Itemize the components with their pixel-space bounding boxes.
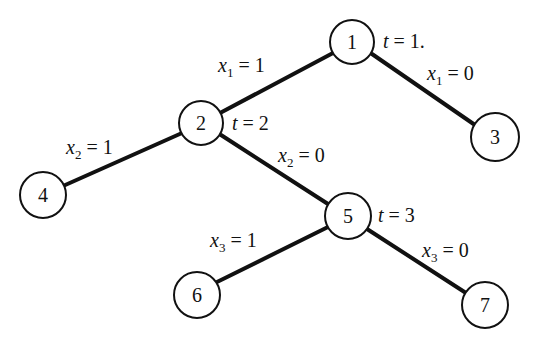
- node-2-label: 2: [196, 112, 206, 134]
- node-6: 6: [174, 272, 220, 318]
- node-5-label: 5: [343, 205, 353, 227]
- edge-label-5-6: x3 = 1: [209, 229, 257, 255]
- edge-label-5-7: x3 = 0: [421, 239, 469, 265]
- node-7-label: 7: [480, 294, 490, 316]
- edge-label-2-4: x2 = 1: [65, 136, 113, 162]
- node-1-label: 1: [347, 31, 357, 53]
- node-5: 5: [325, 193, 371, 239]
- node-6-label: 6: [192, 284, 202, 306]
- branching-tree-diagram: 1 2 3 4 5 6 7 x1 = 1 x1 = 0 x2 = 1 x2 = …: [0, 0, 541, 345]
- node-4-label: 4: [38, 184, 48, 206]
- stage-label-node-2: t = 2: [232, 112, 269, 134]
- node-3: 3: [471, 113, 519, 161]
- stage-label-node-1: t = 1.: [383, 30, 425, 52]
- edge-label-2-5: x2 = 0: [277, 144, 325, 170]
- node-4: 4: [20, 172, 66, 218]
- stage-label-node-5: t = 3: [378, 204, 415, 226]
- edge-label-1-2: x1 = 1: [217, 54, 265, 80]
- node-2: 2: [179, 101, 223, 145]
- node-3-label: 3: [490, 126, 500, 148]
- edge-label-1-3: x1 = 0: [426, 62, 474, 88]
- node-1: 1: [330, 20, 374, 64]
- node-7: 7: [462, 282, 508, 328]
